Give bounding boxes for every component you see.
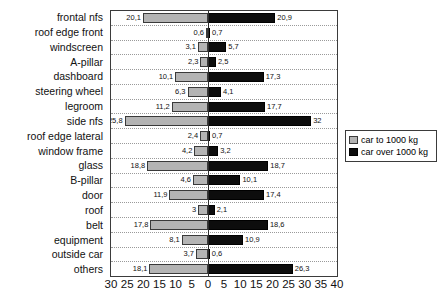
value-axis-tick: 0 bbox=[205, 279, 211, 291]
category-label: equipment bbox=[0, 232, 106, 247]
bar-value-label-right: 2,5 bbox=[218, 58, 228, 66]
category-label: door bbox=[0, 188, 106, 203]
bar-value-label-right: 4,1 bbox=[223, 88, 233, 96]
value-axis-ticks: 302520151050510152025303540 bbox=[110, 279, 338, 297]
bar-value-label-left: 2,4 bbox=[188, 132, 198, 140]
bar-car-to-1000kg bbox=[198, 205, 208, 215]
category-label: side nfs bbox=[0, 114, 106, 129]
bar-car-over-1000kg bbox=[208, 72, 264, 82]
diverging-bar-chart: frontal nfsroof edge frontwindscreenA-pi… bbox=[0, 0, 440, 307]
bar-value-label-left: 18,8 bbox=[131, 162, 146, 170]
bar-row: 11,917,4 bbox=[111, 188, 337, 203]
bar-car-to-1000kg bbox=[182, 235, 208, 245]
bar-row: 11,217,7 bbox=[111, 100, 337, 115]
value-axis-tick: 10 bbox=[169, 279, 182, 291]
bar-car-to-1000kg bbox=[194, 146, 208, 156]
bar-car-to-1000kg bbox=[143, 13, 208, 23]
bar-value-label-right: 18,7 bbox=[270, 162, 285, 170]
bar-value-label-left: 4,6 bbox=[181, 177, 191, 185]
bar-car-to-1000kg bbox=[125, 116, 208, 126]
value-axis-tick: 5 bbox=[221, 279, 227, 291]
bar-car-to-1000kg bbox=[150, 220, 207, 230]
bar-car-over-1000kg bbox=[208, 235, 243, 245]
bar-car-to-1000kg bbox=[198, 42, 208, 52]
bar-value-label-right: 0,7 bbox=[212, 29, 222, 37]
bar-value-label-right: 20,9 bbox=[277, 14, 292, 22]
bar-row: 18,818,7 bbox=[111, 159, 337, 174]
legend-item-car-to-1000kg: car to 1000 kg bbox=[349, 134, 433, 146]
category-label: legroom bbox=[0, 99, 106, 114]
category-label: belt bbox=[0, 218, 106, 233]
bar-row: 32,1 bbox=[111, 203, 337, 218]
category-axis-labels: frontal nfsroof edge frontwindscreenA-pi… bbox=[0, 10, 106, 277]
bar-car-over-1000kg bbox=[208, 102, 265, 112]
bar-car-to-1000kg bbox=[200, 131, 208, 141]
value-axis-tick: 25 bbox=[121, 279, 134, 291]
legend-label-car-to-1000kg: car to 1000 kg bbox=[361, 134, 418, 146]
bar-value-label-left: 11,9 bbox=[153, 192, 167, 200]
bar-value-label-left: 3 bbox=[192, 206, 196, 214]
category-label: outside car bbox=[0, 247, 106, 262]
bar-value-label-right: 5,7 bbox=[228, 44, 238, 52]
value-axis-tick: 20 bbox=[137, 279, 150, 291]
bar-value-label-right: 17,4 bbox=[266, 192, 281, 200]
value-axis-tick: 35 bbox=[314, 279, 327, 291]
chart-legend: car to 1000 kg car over 1000 kg bbox=[345, 130, 437, 162]
bar-row: 18,126,3 bbox=[111, 262, 337, 276]
bar-value-label-left: 0,6 bbox=[193, 29, 203, 37]
bar-row: 6,34,1 bbox=[111, 85, 337, 100]
bar-car-to-1000kg bbox=[175, 72, 208, 82]
bar-value-label-left: 10,1 bbox=[159, 73, 174, 81]
bar-value-label-right: 18,6 bbox=[270, 221, 285, 229]
value-axis-tick: 40 bbox=[331, 279, 344, 291]
category-label: roof edge front bbox=[0, 25, 106, 40]
bar-car-over-1000kg bbox=[208, 57, 216, 67]
bar-row: 20,120,9 bbox=[111, 11, 337, 26]
bar-value-label-right: 0,7 bbox=[212, 132, 222, 140]
bar-row: 2,40,7 bbox=[111, 129, 337, 144]
value-axis-tick: 20 bbox=[266, 279, 279, 291]
bar-value-label-left: 4,2 bbox=[182, 147, 192, 155]
bar-car-to-1000kg bbox=[149, 264, 207, 274]
category-label: windscreen bbox=[0, 40, 106, 55]
bar-value-label-right: 2,1 bbox=[217, 206, 227, 214]
category-label: frontal nfs bbox=[0, 10, 106, 25]
value-axis-tick: 30 bbox=[105, 279, 118, 291]
bar-row: 4,610,1 bbox=[111, 174, 337, 189]
bar-row: 2,32,5 bbox=[111, 55, 337, 70]
bar-value-label-left: 18,1 bbox=[133, 265, 148, 273]
bar-car-over-1000kg bbox=[208, 42, 226, 52]
bar-value-label-left: 3,7 bbox=[183, 251, 193, 259]
bar-value-label-left: 8,1 bbox=[169, 236, 179, 244]
bar-row: 4,23,2 bbox=[111, 144, 337, 159]
bar-value-label-right: 0,6 bbox=[212, 251, 222, 259]
bar-row: 17,818,6 bbox=[111, 218, 337, 233]
bar-value-label-left: 25,8 bbox=[110, 118, 123, 126]
value-axis-tick: 5 bbox=[189, 279, 195, 291]
bar-row: 10,117,3 bbox=[111, 70, 337, 85]
bar-car-to-1000kg bbox=[196, 249, 208, 259]
value-axis-tick: 25 bbox=[282, 279, 295, 291]
bar-row: 0,60,7 bbox=[111, 26, 337, 41]
plot-area: 20,120,90,60,73,15,72,32,510,117,36,34,1… bbox=[110, 10, 338, 277]
category-label: window frame bbox=[0, 143, 106, 158]
bar-car-to-1000kg bbox=[188, 87, 208, 97]
category-label: A-pillar bbox=[0, 54, 106, 69]
value-axis-tick: 15 bbox=[250, 279, 263, 291]
category-label: B-pillar bbox=[0, 173, 106, 188]
bar-car-over-1000kg bbox=[208, 87, 221, 97]
bar-car-over-1000kg bbox=[208, 13, 275, 23]
legend-item-car-over-1000kg: car over 1000 kg bbox=[349, 146, 433, 158]
category-label: others bbox=[0, 262, 106, 277]
bar-car-to-1000kg bbox=[147, 161, 208, 171]
bar-value-label-left: 20,1 bbox=[126, 14, 141, 22]
bar-car-over-1000kg bbox=[208, 190, 264, 200]
bar-value-label-left: 17,8 bbox=[134, 221, 149, 229]
value-axis-tick: 15 bbox=[153, 279, 166, 291]
bar-car-to-1000kg bbox=[200, 57, 207, 67]
value-axis-tick: 10 bbox=[234, 279, 247, 291]
bar-car-to-1000kg bbox=[169, 190, 207, 200]
light-gray-swatch-icon bbox=[349, 136, 358, 144]
category-label: roof bbox=[0, 203, 106, 218]
black-swatch-icon bbox=[349, 148, 358, 156]
